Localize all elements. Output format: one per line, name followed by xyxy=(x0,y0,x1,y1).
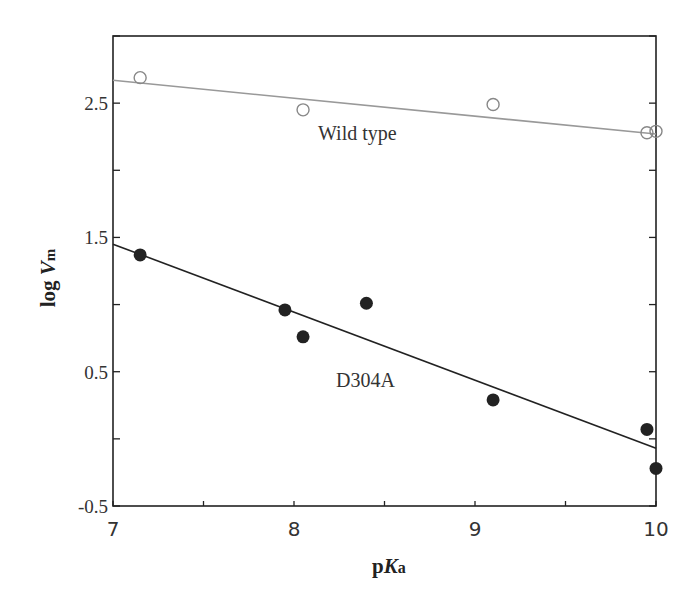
y-tick-label: 2.5 xyxy=(84,93,108,114)
x-tick-label: 8 xyxy=(288,517,301,541)
wild-type-point xyxy=(134,72,146,84)
d304a-point xyxy=(650,462,663,475)
d304a-point xyxy=(640,423,653,436)
d304a-point xyxy=(487,393,500,406)
wild-type-label: Wild type xyxy=(318,122,397,145)
y-tick-label: 1.5 xyxy=(84,227,108,248)
axis-ticks: 78910-0.50.51.52.5 xyxy=(78,36,669,541)
d304a-point xyxy=(297,330,310,343)
wild-type-point xyxy=(650,125,662,137)
d304a-point xyxy=(278,303,291,316)
y-tick-label: -0.5 xyxy=(78,496,108,517)
wild-type-point xyxy=(487,98,499,110)
y-tick-label: 0.5 xyxy=(84,362,108,383)
d304a-point xyxy=(360,297,373,310)
annotations: Wild type D304A xyxy=(318,122,397,391)
x-axis-title: pKa xyxy=(372,554,406,578)
d304a-label: D304A xyxy=(336,369,395,391)
y-axis-title: log Vm xyxy=(36,248,60,307)
x-tick-label: 10 xyxy=(643,517,668,541)
d304a-point xyxy=(134,248,147,261)
x-tick-label: 7 xyxy=(107,517,120,541)
chart-canvas: 78910-0.50.51.52.5 Wild type D304A pKa l… xyxy=(0,0,690,601)
data-points xyxy=(134,72,663,475)
x-tick-label: 9 xyxy=(469,517,482,541)
fit-line-d304a xyxy=(113,244,656,448)
wild-type-point xyxy=(297,104,309,116)
